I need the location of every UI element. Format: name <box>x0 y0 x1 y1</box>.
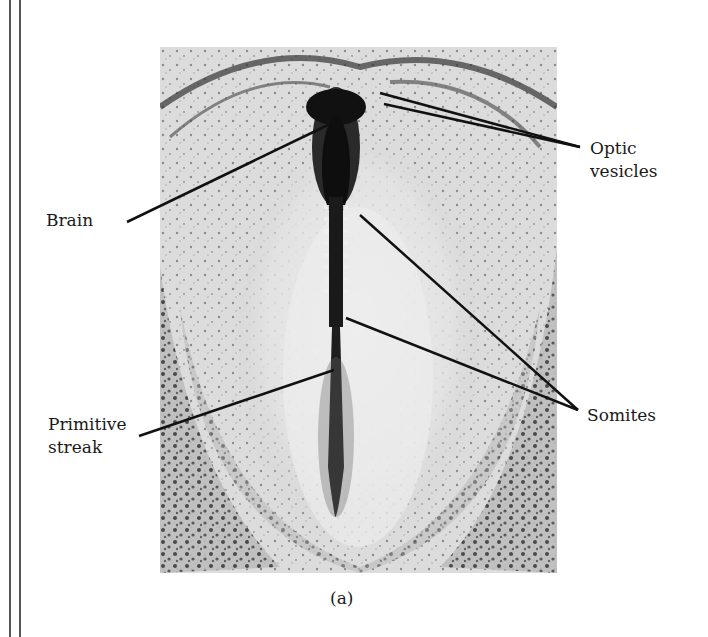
label-brain: Brain <box>46 209 93 231</box>
figure-caption: (a) <box>330 588 353 608</box>
label-optic-vesicles-1: Optic <box>590 137 637 159</box>
label-optic-vesicles-2: vesicles <box>590 160 658 182</box>
label-somites: Somites <box>587 404 656 426</box>
margin-rule-right <box>19 0 21 637</box>
label-primitive-streak-2: streak <box>48 436 102 458</box>
label-primitive-streak-1: Primitive <box>48 413 127 435</box>
margin-rule-left <box>9 0 11 637</box>
embryo-micrograph <box>160 47 557 573</box>
